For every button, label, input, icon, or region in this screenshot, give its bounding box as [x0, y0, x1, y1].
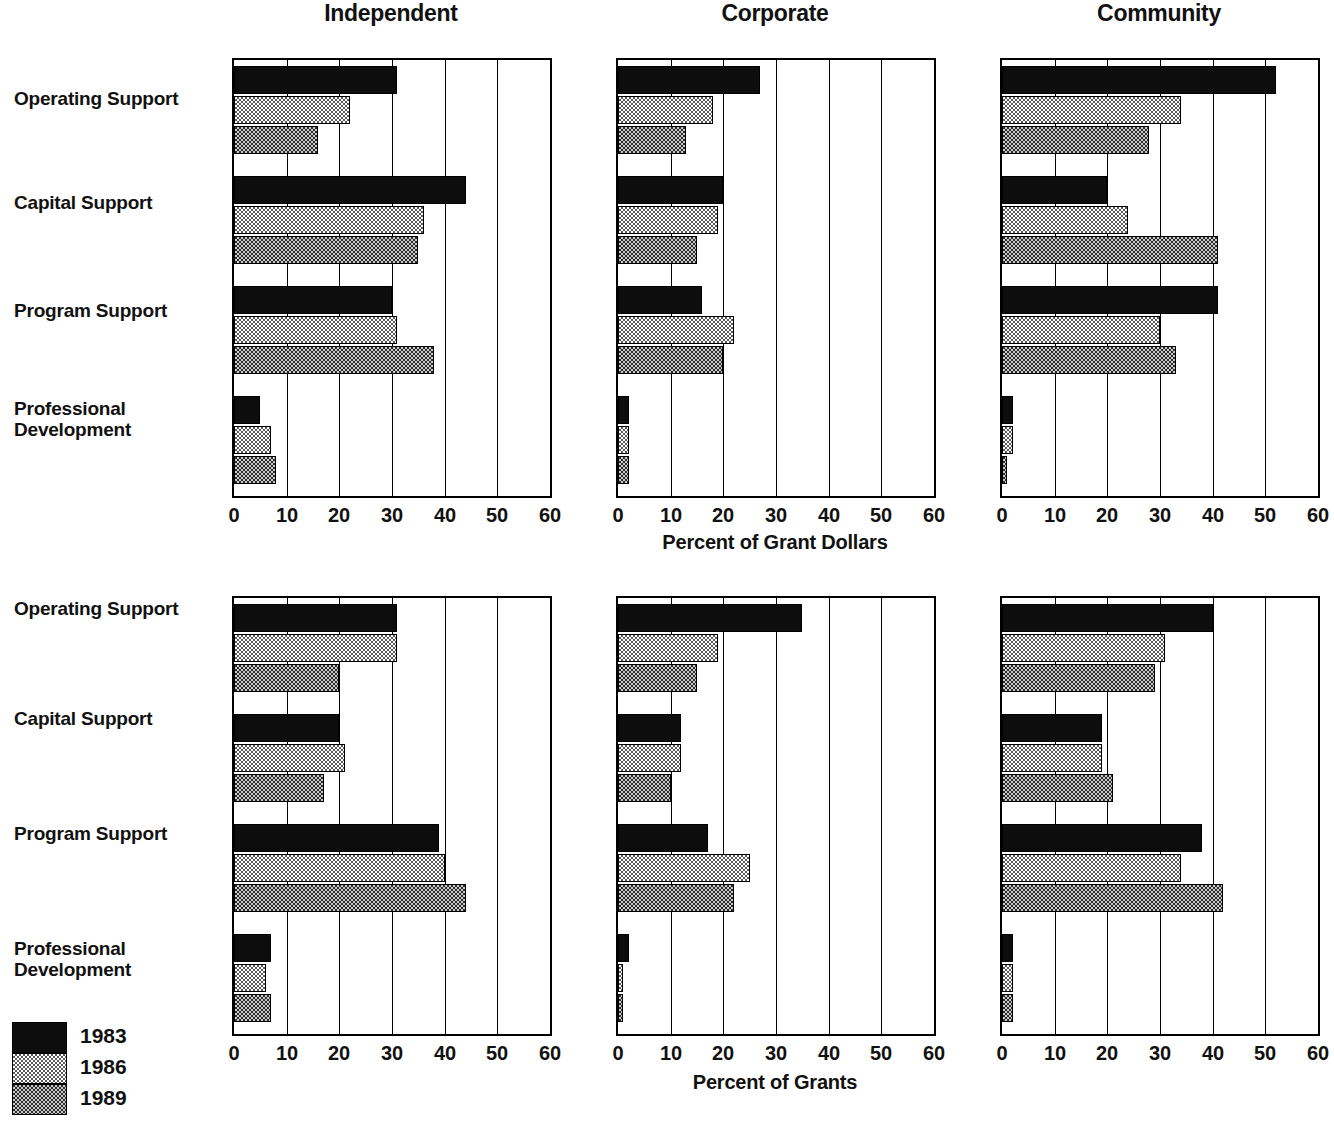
bar [234, 664, 339, 692]
bar [1002, 824, 1202, 852]
gridline-50 [881, 598, 882, 1034]
bar [1002, 934, 1013, 962]
x-tick-label-0: 0 [982, 1042, 1022, 1065]
bar [1002, 426, 1013, 454]
legend-swatch-1983 [12, 1022, 67, 1053]
gridline-30 [392, 60, 393, 496]
category-label-capital-support-2: Capital Support [14, 708, 220, 729]
bar [1002, 316, 1160, 344]
x-tick-label-40: 40 [425, 1042, 465, 1065]
x-tick-label-30: 30 [1140, 1042, 1180, 1065]
bar [234, 206, 424, 234]
bar [234, 346, 434, 374]
bar [1002, 346, 1176, 374]
x-tick-label-20: 20 [1087, 504, 1127, 527]
category-label-professional-development-2: Professional Development [14, 938, 220, 981]
x-tick-label-50: 50 [1245, 504, 1285, 527]
bar [234, 714, 339, 742]
x-tick-label-30: 30 [756, 504, 796, 527]
chart-percent-of-grant-dollars: Operating Support Capital Support Progra… [0, 0, 1334, 560]
panel-community-dollars: Community 0102030405060 [1000, 0, 1318, 560]
x-tick-label-40: 40 [1193, 1042, 1233, 1065]
x-tick-label-0: 0 [214, 504, 254, 527]
x-tick-label-10: 10 [267, 504, 307, 527]
bar [1002, 744, 1102, 772]
bar [234, 854, 445, 882]
bar [234, 96, 350, 124]
plot-area [232, 596, 552, 1036]
gridline-50 [1265, 598, 1266, 1034]
x-tick-label-60: 60 [1298, 1042, 1334, 1065]
bar [618, 396, 629, 424]
legend: 1983 1986 1989 [12, 1022, 202, 1115]
x-tick-label-50: 50 [861, 504, 901, 527]
bar [618, 96, 713, 124]
bar [234, 934, 271, 962]
x-tick-label-10: 10 [267, 1042, 307, 1065]
bar [618, 934, 629, 962]
bar [234, 176, 466, 204]
bar [618, 604, 802, 632]
bar [234, 316, 397, 344]
category-label-operating-support-2: Operating Support [14, 598, 220, 619]
bar [618, 714, 681, 742]
bar [1002, 126, 1149, 154]
bar [234, 426, 271, 454]
bar [618, 824, 708, 852]
x-tick-label-0: 0 [598, 504, 638, 527]
gridline-40 [829, 60, 830, 496]
category-label-program-support-2: Program Support [14, 823, 220, 844]
bar [618, 66, 760, 94]
bar [618, 456, 629, 484]
x-tick-label-20: 20 [319, 1042, 359, 1065]
x-tick-label-0: 0 [982, 504, 1022, 527]
bar [618, 964, 623, 992]
x-tick-label-30: 30 [372, 1042, 412, 1065]
gridline-20 [723, 598, 724, 1034]
x-tick-label-30: 30 [756, 1042, 796, 1065]
bar [234, 236, 418, 264]
bar [1002, 634, 1165, 662]
gridline-50 [497, 598, 498, 1034]
bar [234, 604, 397, 632]
panel-title-corporate: Corporate [616, 0, 934, 27]
plot-area [616, 596, 936, 1036]
bar [618, 286, 702, 314]
gridline-50 [497, 60, 498, 496]
bar [1002, 664, 1155, 692]
bar [618, 884, 734, 912]
x-axis-ticks: 0102030405060 [1000, 1042, 1320, 1068]
gridline-40 [1213, 598, 1214, 1034]
category-labels-top: Operating Support Capital Support Progra… [14, 0, 222, 560]
x-tick-label-60: 60 [1298, 504, 1334, 527]
bar [1002, 176, 1107, 204]
x-tick-label-40: 40 [1193, 504, 1233, 527]
x-tick-label-20: 20 [703, 504, 743, 527]
x-tick-label-50: 50 [861, 1042, 901, 1065]
professional-development-line-1-2: Professional [14, 938, 126, 959]
professional-development-line-2: Development [14, 419, 131, 440]
bar [1002, 96, 1181, 124]
gridline-40 [1213, 60, 1214, 496]
professional-development-line-2-2: Development [14, 959, 131, 980]
gridline-20 [339, 60, 340, 496]
gridline-20 [723, 60, 724, 496]
plot-area [1000, 58, 1320, 498]
bar [1002, 714, 1102, 742]
panel-corporate-dollars: Corporate 0102030405060 [616, 0, 934, 560]
legend-swatch-1989 [12, 1084, 67, 1115]
bar [1002, 396, 1013, 424]
bar [234, 66, 397, 94]
bar [618, 774, 671, 802]
xaxis-label-bottom: Percent of Grants [616, 1071, 934, 1094]
bar [234, 634, 397, 662]
x-tick-label-10: 10 [651, 504, 691, 527]
x-tick-label-20: 20 [319, 504, 359, 527]
x-tick-label-60: 60 [530, 504, 570, 527]
gridline-30 [1160, 598, 1161, 1034]
category-label-operating-support: Operating Support [14, 88, 220, 109]
x-tick-label-40: 40 [809, 504, 849, 527]
x-tick-label-40: 40 [425, 504, 465, 527]
panel-independent-dollars: Independent 0102030405060 [232, 0, 550, 560]
grant-distribution-figure: Operating Support Capital Support Progra… [0, 0, 1334, 1143]
